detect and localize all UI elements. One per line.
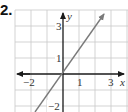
- x-tick-label-1: 1: [77, 76, 83, 88]
- y-tick-label-neg2: −2: [48, 100, 60, 112]
- coordinate-graph: 3 1 −2 −2 1 3 x y: [0, 0, 128, 112]
- y-tick-label-3: 3: [56, 20, 62, 32]
- x-axis-label: x: [119, 76, 125, 88]
- y-axis-label: y: [66, 10, 72, 22]
- graph-line: [35, 14, 104, 112]
- x-tick-label-3: 3: [108, 76, 114, 88]
- y-tick-label-1: 1: [56, 52, 62, 64]
- x-tick-label-neg2: −2: [23, 76, 35, 88]
